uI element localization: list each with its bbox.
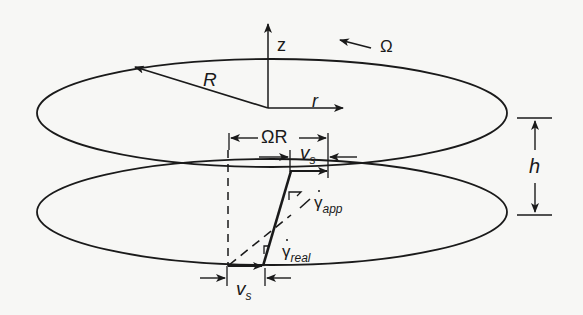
bottom-slip-label: vs	[236, 279, 252, 298]
gamma-real-sub: real	[291, 251, 311, 265]
rim-velocity-label: ΩR	[261, 128, 287, 146]
gap-label: h	[529, 156, 540, 176]
radius-arrow	[135, 67, 268, 108]
gamma-app-label: γapp	[314, 194, 343, 211]
top-slip-label: vs	[300, 143, 316, 162]
gamma-app-angle-marker	[289, 192, 301, 200]
top-slip-v: v	[300, 142, 310, 163]
gamma-app-symbol: γ	[314, 193, 323, 212]
r-axis-label: r	[312, 92, 318, 110]
bottom-slip-v: v	[236, 278, 246, 299]
gamma-app-sub: app	[323, 202, 343, 216]
gamma-real-symbol: γ	[282, 242, 291, 261]
apparent-profile-tick	[300, 199, 310, 208]
omega-label: Ω	[380, 38, 393, 55]
rheometer-diagram: z Ω R r ΩR vs γapp γreal vs h	[0, 0, 583, 315]
bottom-plate-ellipse	[37, 159, 507, 265]
radius-label: R	[203, 70, 217, 89]
bottom-slip-sub: s	[246, 289, 252, 303]
rotation-arrow	[340, 40, 371, 48]
rim-velocity-text: ΩR	[261, 127, 287, 147]
diagram-canvas	[0, 0, 583, 315]
top-slip-sub: s	[310, 153, 316, 167]
z-axis-label: z	[277, 36, 286, 54]
top-plate-ellipse	[37, 59, 507, 167]
gamma-real-label: γreal	[282, 243, 311, 260]
